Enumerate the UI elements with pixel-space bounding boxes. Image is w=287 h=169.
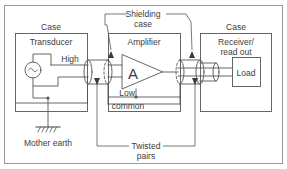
common-label: common [112,101,145,111]
shielding-case-label-line1: Shielding [126,9,161,19]
receiver-label-line2: read out [220,47,252,57]
case-right-label: Case [226,22,246,32]
twisted-pairs-label-line1: Twisted [132,141,161,151]
junction-dot-earth [46,96,49,99]
transducer-label: Transducer [30,37,73,47]
case-left-label: Case [41,22,61,32]
amplifier-symbol-label: A [128,65,138,82]
load-label: Load [237,68,256,78]
diagram-canvas: Case Transducer High Shielding case Ampl… [0,0,287,169]
high-label: High [61,54,79,64]
amplifier-label: Amplifier [127,37,160,47]
low-label: Low [119,88,135,98]
mother-earth-label: Mother earth [24,138,72,148]
shielding-case-label-line2: case [134,19,152,29]
twisted-pairs-label-line2: pairs [137,151,155,161]
schematic-svg: Case Transducer High Shielding case Ampl… [0,0,287,169]
receiver-label-line1: Receiver/ [218,37,255,47]
